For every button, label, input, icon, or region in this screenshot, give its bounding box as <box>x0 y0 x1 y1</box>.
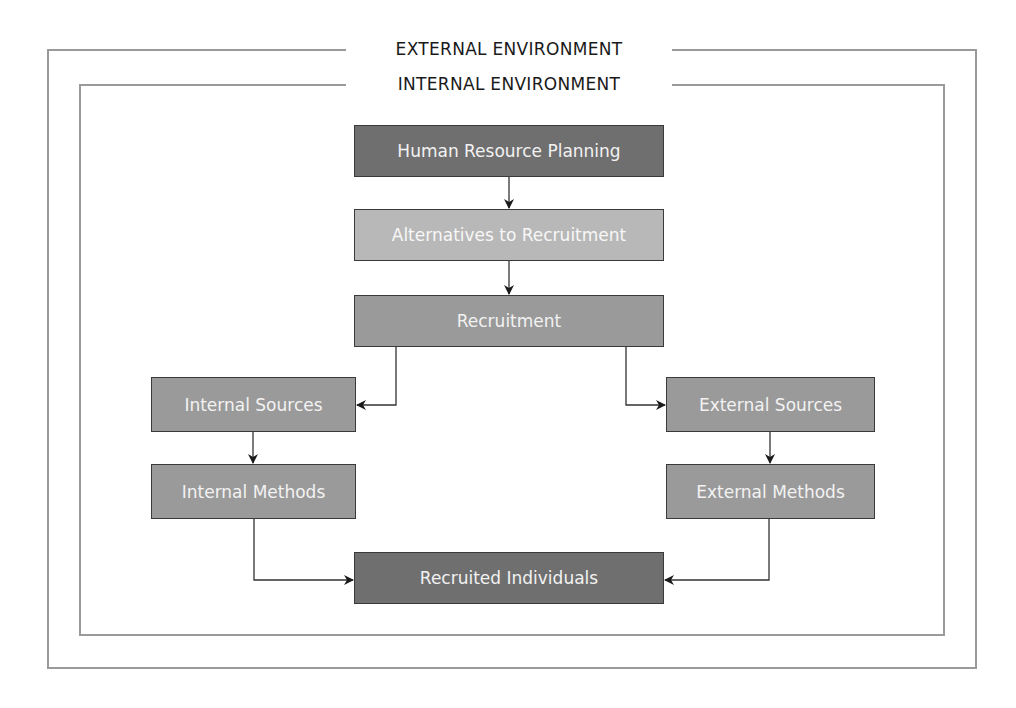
node-alternatives-to-recruitment: Alternatives to Recruitment <box>354 209 664 261</box>
node-internal-methods: Internal Methods <box>151 464 356 519</box>
node-recruited-individuals: Recruited Individuals <box>354 552 664 604</box>
node-label: Human Resource Planning <box>397 141 620 161</box>
node-label: External Methods <box>696 482 845 502</box>
arrow-internal-methods-to-recruited <box>254 518 353 580</box>
node-human-resource-planning: Human Resource Planning <box>354 125 664 177</box>
node-internal-sources: Internal Sources <box>151 377 356 432</box>
arrow-recruitment-to-external-sources <box>626 346 665 405</box>
node-recruitment: Recruitment <box>354 295 664 347</box>
node-label: Recruited Individuals <box>420 568 598 588</box>
node-label: Alternatives to Recruitment <box>392 225 626 245</box>
arrow-recruitment-to-internal-sources <box>357 346 396 405</box>
node-external-sources: External Sources <box>666 377 875 432</box>
node-label: External Sources <box>699 395 842 415</box>
node-label: Internal Sources <box>184 395 322 415</box>
node-external-methods: External Methods <box>666 464 875 519</box>
node-label: Recruitment <box>457 311 561 331</box>
arrow-external-methods-to-recruited <box>665 518 769 580</box>
node-label: Internal Methods <box>182 482 326 502</box>
